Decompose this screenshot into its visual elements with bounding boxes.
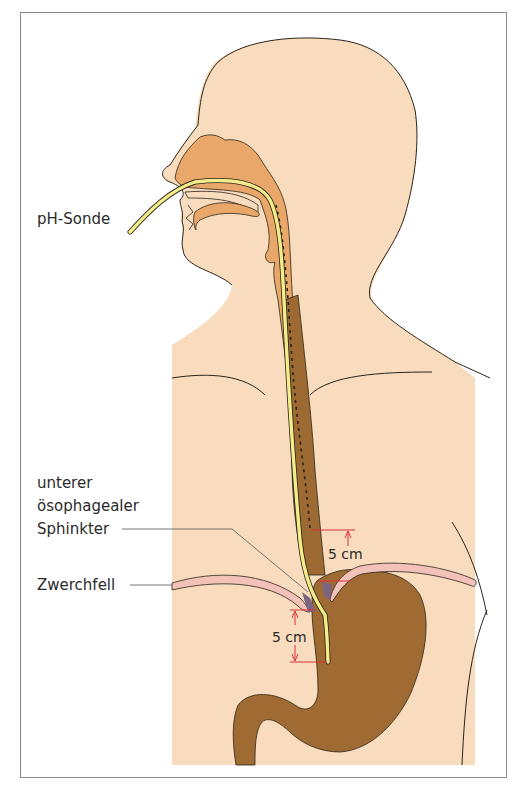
label-les-2: ösophagealer xyxy=(37,497,140,515)
label-les-1: unterer xyxy=(37,474,93,492)
label-probe: pH-Sonde xyxy=(37,210,110,228)
dim-upper-text: 5 cm xyxy=(328,546,363,562)
label-les-3: Sphinkter xyxy=(37,520,110,538)
anatomy-illustration: pH-Sonde unterer ösophagealer Sphinkter … xyxy=(0,0,529,792)
dim-lower-text: 5 cm xyxy=(272,629,307,645)
label-diaphragm: Zwerchfell xyxy=(37,576,115,594)
